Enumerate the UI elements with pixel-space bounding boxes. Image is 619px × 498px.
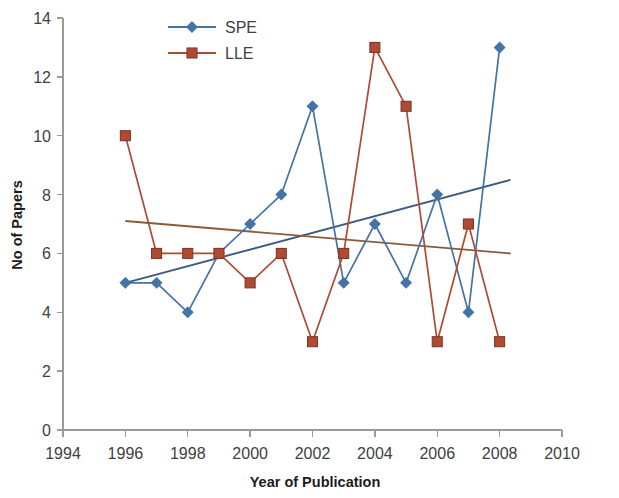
data-point-lle	[183, 248, 193, 258]
series-line-spe	[125, 47, 499, 312]
x-tick-label: 2010	[544, 445, 580, 462]
y-tick-label: 10	[33, 128, 51, 145]
y-tick-label: 8	[42, 187, 51, 204]
data-point-lle	[152, 248, 162, 258]
data-point-lle	[401, 101, 411, 111]
y-tick-label: 6	[42, 245, 51, 262]
legend-marker-lle	[187, 48, 197, 58]
y-axis-tick-labels: 02468101214	[33, 10, 51, 439]
data-point-lle	[432, 337, 442, 347]
data-point-lle	[245, 278, 255, 288]
axes	[57, 18, 562, 437]
data-point-spe	[494, 42, 504, 52]
data-point-spe	[307, 101, 317, 111]
data-point-spe	[401, 278, 411, 288]
data-point-lle	[308, 337, 318, 347]
y-tick-label: 12	[33, 69, 51, 86]
data-series	[125, 47, 499, 341]
data-point-spe	[370, 219, 380, 229]
series-line-lle	[125, 47, 499, 341]
data-markers	[120, 42, 505, 346]
legend-label-lle: LLE	[225, 45, 253, 62]
y-tick-label: 4	[42, 304, 51, 321]
data-point-spe	[338, 278, 348, 288]
trendline	[125, 180, 510, 283]
legend-label-spe: SPE	[225, 19, 257, 36]
data-point-spe	[120, 278, 130, 288]
data-point-lle	[120, 131, 130, 141]
x-axis-tick-labels: 199419961998200020022004200620082010	[45, 445, 580, 462]
data-point-lle	[370, 42, 380, 52]
trendlines	[125, 180, 510, 283]
data-point-lle	[214, 248, 224, 258]
x-tick-label: 1996	[108, 445, 144, 462]
x-axis-title: Year of Publication	[250, 474, 381, 490]
x-tick-label: 2004	[357, 445, 393, 462]
x-tick-label: 1998	[170, 445, 206, 462]
x-tick-label: 2008	[482, 445, 518, 462]
legend: SPELLE	[168, 19, 257, 62]
data-point-lle	[339, 248, 349, 258]
data-point-spe	[463, 307, 473, 317]
y-tick-label: 2	[42, 363, 51, 380]
y-axis-title: No of Papers	[9, 180, 25, 269]
data-point-lle	[276, 248, 286, 258]
chart-container: 199419961998200020022004200620082010 024…	[0, 0, 619, 498]
data-point-lle	[495, 337, 505, 347]
x-tick-label: 2006	[419, 445, 455, 462]
y-tick-label: 0	[42, 422, 51, 439]
x-tick-label: 2002	[295, 445, 331, 462]
legend-marker-spe	[187, 22, 197, 32]
data-point-lle	[463, 219, 473, 229]
y-tick-label: 14	[33, 10, 51, 27]
line-chart: 199419961998200020022004200620082010 024…	[0, 0, 619, 498]
x-tick-label: 1994	[45, 445, 81, 462]
x-tick-label: 2000	[232, 445, 268, 462]
